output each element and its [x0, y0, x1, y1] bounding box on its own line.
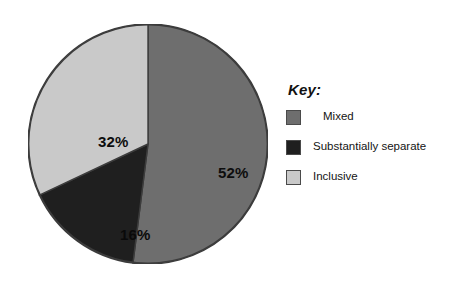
- legend-item-substantially-separate[interactable]: Substantially separate: [286, 139, 456, 155]
- legend: Key: Mixed Substantially separate Inclus…: [286, 82, 456, 185]
- legend-swatch-substantially-separate: [286, 140, 301, 155]
- legend-item-inclusive[interactable]: Inclusive: [286, 169, 456, 185]
- legend-label-substantially-separate: Substantially separate: [313, 141, 426, 153]
- pie-slice-mixed[interactable]: [133, 24, 268, 264]
- pie-chart-area: 52% 16% 32%: [28, 24, 268, 264]
- legend-swatch-mixed: [286, 110, 301, 125]
- legend-label-mixed: Mixed: [323, 111, 354, 123]
- pie-chart-figure: 52% 16% 32% Key: Mixed Substantially sep…: [0, 0, 458, 285]
- pie-label-mixed: 52%: [218, 165, 249, 180]
- legend-item-mixed[interactable]: Mixed: [286, 109, 456, 125]
- legend-label-inclusive: Inclusive: [313, 171, 358, 183]
- legend-title: Key:: [288, 82, 456, 97]
- pie-label-substantially-separate: 16%: [120, 227, 151, 242]
- legend-swatch-inclusive: [286, 170, 301, 185]
- pie-label-inclusive: 32%: [98, 134, 129, 149]
